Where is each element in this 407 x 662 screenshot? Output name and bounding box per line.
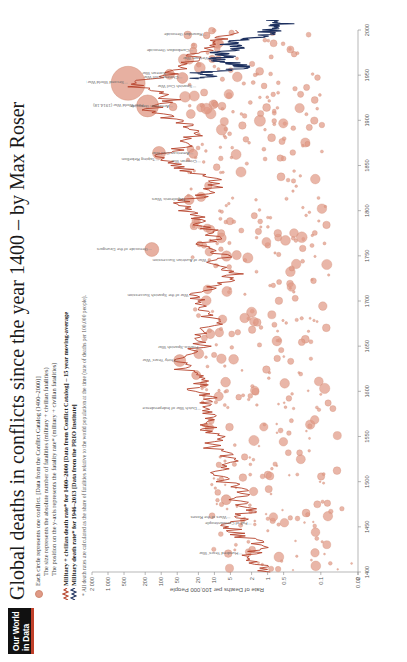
x-axis-tick: 1650 <box>364 340 370 352</box>
legend-position-label: The position on the y-axis represents th… <box>50 363 57 576</box>
x-axis-tick: 1750 <box>364 250 370 262</box>
legend-red-line-label: Military + civilian death rate* for 1400… <box>62 312 69 586</box>
x-axis-tick: 1400 <box>364 566 370 578</box>
owid-conflict-deaths-chart: Our World in Data Global deaths in confl… <box>0 0 407 662</box>
x-axis-tick: 2000 <box>364 24 370 36</box>
conflict-annotation: Fall of Constantinople <box>205 521 248 526</box>
red-line-marker-icon <box>62 588 70 600</box>
x-axis-tick: 1500 <box>364 475 370 487</box>
conflict-annotation: Napoleonic Wars <box>151 197 185 202</box>
circle-marker-icon <box>34 588 42 600</box>
conflict-annotation: Taiping Rebellion <box>121 157 155 162</box>
logo-line-2: in Data <box>21 611 31 651</box>
logo-line-1: Our World <box>11 611 21 651</box>
y-axis-tick: 10 <box>211 577 217 583</box>
x-axis-tick: 1550 <box>364 430 370 442</box>
y-axis-tick: 0.5 <box>281 577 287 585</box>
conflict-annotation: Thirty Years' War <box>142 358 176 363</box>
legend-item-position-note: The position on the y-axis represents th… <box>50 40 58 600</box>
navy-line-marker-icon <box>70 588 78 600</box>
x-axis-tick: 1700 <box>364 295 370 307</box>
y-axis-tick: 0.1 <box>318 577 324 585</box>
conflict-annotation: Armenian Genocide <box>130 104 169 109</box>
conflict-annotation: Wars of the Roses <box>190 515 227 520</box>
conflict-annotation: Dutch War of Independence <box>142 406 197 411</box>
y-axis-tick: 5 <box>227 577 233 580</box>
x-axis-tick: 1900 <box>364 114 370 126</box>
y-axis-tick: 1 000 <box>105 577 111 591</box>
y-axis-tick: 0 <box>355 577 361 580</box>
conflict-annotation: Second World War (1939-45) <box>86 80 124 85</box>
conflict-annotation: Crimean War <box>171 159 197 164</box>
conflict-annotation: Chinese Civil War <box>143 75 178 80</box>
conflict-annotation: Hundred Years' War <box>199 551 239 556</box>
legend-item-navy-line: Military death rate* for 1946–2013 [Data… <box>70 40 78 600</box>
y-axis-tick: 500 <box>121 577 127 586</box>
conflict-annotation: War of the Spanish Succession <box>127 293 188 298</box>
y-axis-tick: 20 <box>195 577 201 583</box>
x-axis-tick: 1600 <box>364 385 370 397</box>
x-axis-tick: 1450 <box>364 521 370 533</box>
conflict-annotation: Vietnam War <box>183 56 209 61</box>
conflict-annotation: American Civil War <box>152 151 190 156</box>
legend-navy-line-label: Military death rate* for 1946–2013 [Data… <box>70 404 77 586</box>
y-axis-tick: 2 <box>249 577 255 580</box>
x-axis-tick: 1850 <box>364 159 370 171</box>
x-axis-tick: 1800 <box>364 204 370 216</box>
plot-area: Rate of Deaths per 100,000 People 2 0001… <box>86 20 378 606</box>
page-title: Global deaths in conflicts since the yea… <box>6 102 29 600</box>
conflict-annotation: Cambodian Genocide <box>146 48 189 53</box>
y-axis-label: Rate of Deaths per 100,000 People <box>157 587 277 593</box>
our-world-in-data-logo[interactable]: Our World in Data <box>8 608 34 654</box>
rotated-poster-wrapper: Our World in Data Global deaths in confl… <box>0 0 407 662</box>
conflict-annotation: Rwandan Genocide <box>163 32 202 37</box>
x-axis-tick: 1950 <box>364 69 370 81</box>
chart-canvas: 2 0001 0005002001005020105210.50.10.0201… <box>86 20 378 606</box>
y-axis-tick: 200 <box>142 577 148 586</box>
y-axis-tick: 100 <box>158 577 164 586</box>
conflict-annotation: Spanish Civil War <box>157 84 192 89</box>
legend-item-circle: Each circle represents one conflict. [Da… <box>34 40 42 600</box>
series-line <box>190 20 294 79</box>
y-axis-tick: 2 000 <box>89 577 95 591</box>
y-axis-tick: 50 <box>174 577 180 583</box>
legend-size-label: The size represents the absolute number … <box>42 367 49 576</box>
legend-item-size-note: The size represents the absolute number … <box>42 40 50 600</box>
conflict-annotation: Genocide of the Dzungars <box>96 247 148 252</box>
conflict-annotation: War of Austrian Succession <box>152 258 206 263</box>
chart-legend: Each circle represents one conflict. [Da… <box>34 40 87 600</box>
conflict-annotation: Franco-Spanish War <box>158 345 199 350</box>
legend-item-red-line: Military + civilian death rate* for 1400… <box>62 40 70 600</box>
legend-circle-label: Each circle represents one conflict. [Da… <box>34 376 41 586</box>
y-axis-tick: 1 <box>265 577 271 580</box>
